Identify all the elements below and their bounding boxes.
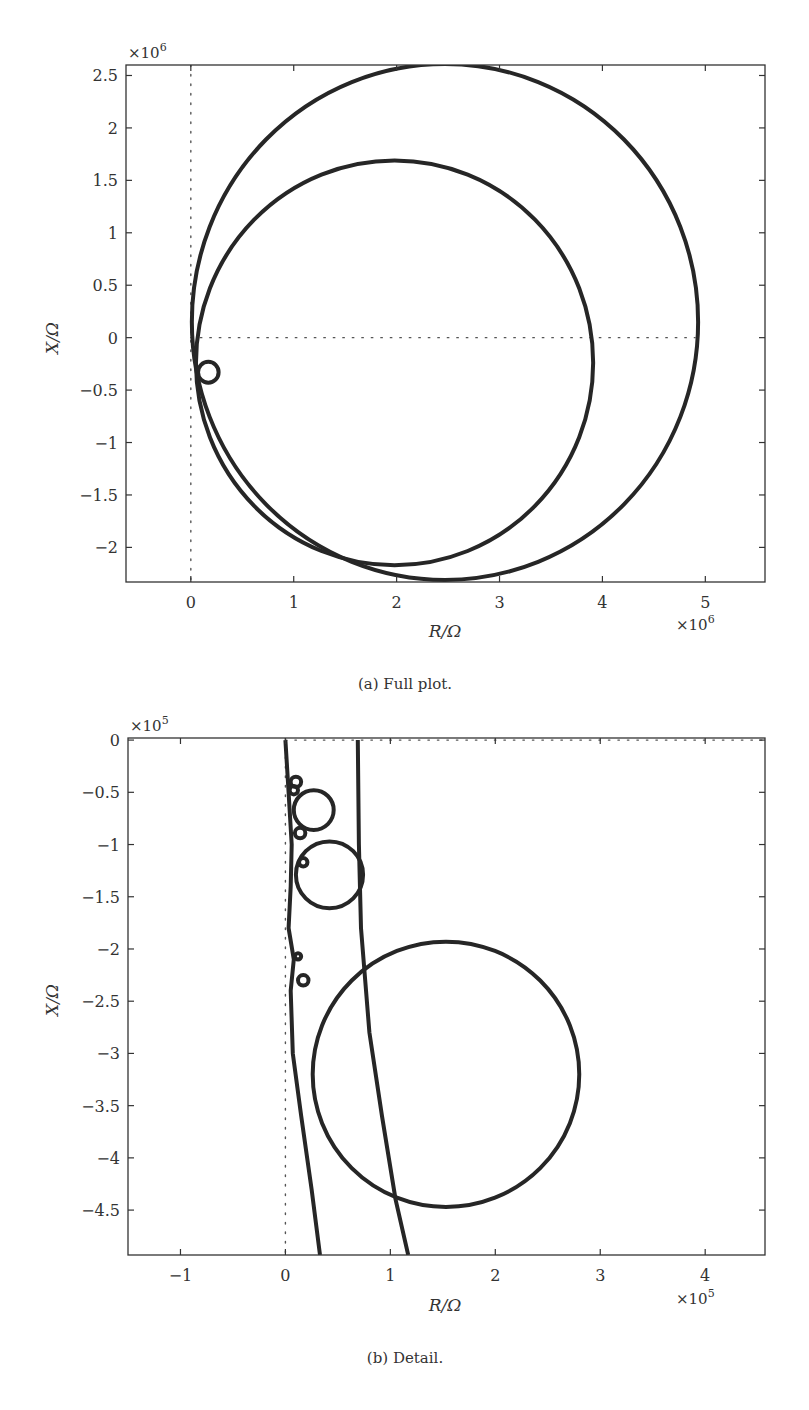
y-multiplier-b: ×105 bbox=[130, 714, 169, 735]
y-tick-label: −1 bbox=[94, 434, 118, 453]
y-tick-label: 2 bbox=[108, 119, 118, 138]
y-tick-label: 0.5 bbox=[93, 276, 118, 295]
y-tick-label: −4.5 bbox=[81, 1201, 120, 1220]
plot-area-b bbox=[285, 738, 765, 1255]
x-tick-label: 3 bbox=[494, 593, 504, 612]
curve-circle bbox=[295, 828, 305, 838]
axes-box-b bbox=[128, 738, 765, 1255]
y-tick-label: 1 bbox=[108, 224, 118, 243]
y-tick-label: 0 bbox=[110, 731, 120, 750]
x-tick-label: 4 bbox=[597, 593, 607, 612]
y-tick-label: −1 bbox=[96, 836, 120, 855]
x-tick-label: 4 bbox=[700, 1266, 710, 1285]
plot-area-a bbox=[191, 64, 698, 582]
axes-box-a bbox=[126, 65, 765, 582]
y-tick-label: −1.5 bbox=[81, 888, 120, 907]
x-axis-label-b: R/Ω bbox=[428, 1295, 462, 1315]
y-tick-label: 0 bbox=[108, 329, 118, 348]
curve-circle bbox=[192, 64, 698, 580]
y-tick-label: −3 bbox=[96, 1044, 120, 1063]
y-tick-label: 1.5 bbox=[93, 171, 118, 190]
x-tick-label: 5 bbox=[700, 593, 710, 612]
y-tick-label: −1.5 bbox=[79, 486, 118, 505]
y-multiplier-a: ×106 bbox=[128, 41, 167, 62]
panel-a-full-plot: 0123452.521.510.50−0.5−1−1.5−2 ×106 ×106… bbox=[42, 41, 765, 693]
x-tick-label: 0 bbox=[186, 593, 196, 612]
axis-ticks-a: 0123452.521.510.50−0.5−1−1.5−2 bbox=[79, 65, 765, 612]
curve-trace bbox=[285, 740, 320, 1255]
curve-circle bbox=[295, 953, 301, 959]
caption-a: (a) Full plot. bbox=[358, 675, 452, 693]
panel-b-detail: −1012340−0.5−1−1.5−2−2.5−3−3.5−4−4.5 ×10… bbox=[42, 714, 765, 1367]
y-tick-label: −2 bbox=[96, 940, 120, 959]
curve-circle bbox=[313, 942, 580, 1207]
curve-circle bbox=[198, 362, 219, 383]
x-tick-label: 2 bbox=[392, 593, 402, 612]
curve-circle bbox=[196, 160, 593, 565]
axis-ticks-b: −1012340−0.5−1−1.5−2−2.5−3−3.5−4−4.5 bbox=[81, 731, 765, 1285]
y-tick-label: −2 bbox=[94, 538, 118, 557]
y-tick-label: −0.5 bbox=[81, 783, 120, 802]
x-tick-label: −1 bbox=[169, 1266, 193, 1285]
x-tick-label: 1 bbox=[385, 1266, 395, 1285]
x-tick-label: 3 bbox=[595, 1266, 605, 1285]
y-tick-label: −0.5 bbox=[79, 381, 118, 400]
y-axis-label-b: X/Ω bbox=[42, 984, 62, 1018]
x-multiplier-a: ×106 bbox=[676, 613, 715, 634]
figure: 0123452.521.510.50−0.5−1−1.5−2 ×106 ×106… bbox=[0, 0, 809, 1410]
curve-circle bbox=[296, 841, 363, 908]
curve-circle bbox=[298, 975, 308, 985]
y-tick-label: −3.5 bbox=[81, 1097, 120, 1116]
y-tick-label: −4 bbox=[96, 1149, 120, 1168]
series-layer bbox=[191, 64, 698, 582]
x-tick-label: 2 bbox=[490, 1266, 500, 1285]
series-layer bbox=[285, 738, 765, 1255]
x-tick-label: 0 bbox=[280, 1266, 290, 1285]
curve-circle bbox=[290, 786, 298, 794]
x-multiplier-b: ×105 bbox=[676, 1287, 715, 1308]
caption-b: (b) Detail. bbox=[367, 1349, 443, 1367]
x-tick-label: 1 bbox=[289, 593, 299, 612]
y-tick-label: 2.5 bbox=[93, 66, 118, 85]
curve-circle bbox=[299, 858, 307, 866]
y-tick-label: −2.5 bbox=[81, 992, 120, 1011]
x-axis-label-a: R/Ω bbox=[428, 621, 462, 641]
y-axis-label-a: X/Ω bbox=[42, 322, 62, 356]
curve-circle bbox=[294, 790, 334, 830]
